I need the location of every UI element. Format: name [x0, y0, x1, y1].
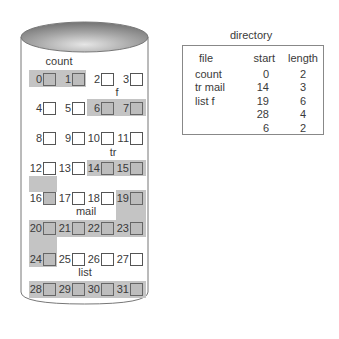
- block-28: 28: [29, 281, 56, 297]
- block-box: [130, 132, 143, 145]
- file-cell: [195, 122, 225, 136]
- file-label-mail: mail: [70, 205, 102, 217]
- block-box: [72, 253, 85, 266]
- block-box: [43, 222, 56, 235]
- file-label-f: f: [110, 86, 124, 98]
- block-box: [43, 162, 56, 175]
- block-8: 8: [32, 130, 56, 146]
- block-box: [72, 222, 85, 235]
- block-1: 1: [61, 71, 85, 87]
- length-cell: 3: [285, 81, 321, 95]
- block-box: [130, 102, 143, 115]
- file-label-list: list: [70, 266, 100, 278]
- length-cell: 4: [285, 108, 321, 122]
- block-box: [43, 283, 56, 296]
- block-box: [130, 162, 143, 175]
- block-box: [101, 162, 114, 175]
- block-2: 2: [90, 71, 114, 87]
- length-cell: 6: [285, 95, 321, 109]
- block-11: 11: [116, 130, 143, 146]
- block-24: 24: [29, 251, 56, 267]
- block-box: [72, 283, 85, 296]
- file-label-count: count: [36, 55, 82, 67]
- start-cell: 28: [245, 108, 275, 122]
- header-length: length: [285, 52, 321, 66]
- file-cell: tr mail: [195, 81, 225, 95]
- header-start: start: [245, 52, 275, 66]
- block-box: [130, 73, 143, 86]
- directory-table: file count tr mail list f start 0 14 19 …: [182, 45, 324, 135]
- block-26: 26: [87, 251, 114, 267]
- block-17: 17: [58, 190, 85, 206]
- block-7: 7: [119, 100, 143, 116]
- block-3: 3: [119, 71, 143, 87]
- start-cell: 6: [245, 122, 275, 136]
- length-cell: 2: [285, 68, 321, 82]
- block-31: 31: [116, 281, 143, 297]
- block-box: [72, 192, 85, 205]
- block-15: 15: [116, 160, 143, 176]
- start-cell: 0: [245, 68, 275, 82]
- block-box: [43, 192, 56, 205]
- block-19: 19: [116, 190, 143, 206]
- file-cell: count: [195, 68, 225, 82]
- block-13: 13: [58, 160, 85, 176]
- block-4: 4: [32, 100, 56, 116]
- block-14: 14: [87, 160, 114, 176]
- block-box: [130, 192, 143, 205]
- block-box: [101, 192, 114, 205]
- block-21: 21: [58, 220, 85, 236]
- block-box: [72, 132, 85, 145]
- block-25: 25: [58, 251, 85, 267]
- directory-start-column: start 0 14 19 28 6: [245, 52, 275, 136]
- block-18: 18: [87, 190, 114, 206]
- block-box: [43, 253, 56, 266]
- block-box: [72, 162, 85, 175]
- block-box: [43, 102, 56, 115]
- block-box: [101, 73, 114, 86]
- start-cell: 19: [245, 95, 275, 109]
- block-12: 12: [29, 160, 56, 176]
- block-0: 0: [32, 71, 56, 87]
- block-22: 22: [87, 220, 114, 236]
- block-5: 5: [61, 100, 85, 116]
- block-box: [130, 253, 143, 266]
- block-box: [72, 102, 85, 115]
- directory-file-column: file count tr mail list f: [195, 52, 225, 136]
- block-9: 9: [61, 130, 85, 146]
- block-box: [130, 222, 143, 235]
- block-6: 6: [90, 100, 114, 116]
- block-10: 10: [87, 130, 114, 146]
- file-cell: [195, 108, 225, 122]
- block-27: 27: [116, 251, 143, 267]
- file-label-tr: tr: [106, 146, 120, 158]
- block-box: [43, 73, 56, 86]
- block-30: 30: [87, 281, 114, 297]
- file-cell: list f: [195, 95, 225, 109]
- directory-length-column: length 2 3 6 4 2: [285, 52, 321, 136]
- block-20: 20: [29, 220, 56, 236]
- block-box: [130, 283, 143, 296]
- block-box: [101, 132, 114, 145]
- block-box: [101, 283, 114, 296]
- block-16: 16: [29, 190, 56, 206]
- directory-title: directory: [230, 29, 272, 41]
- start-cell: 14: [245, 81, 275, 95]
- block-23: 23: [116, 220, 143, 236]
- block-box: [72, 73, 85, 86]
- block-box: [43, 132, 56, 145]
- length-cell: 2: [285, 122, 321, 136]
- header-file: file: [195, 52, 225, 66]
- block-box: [101, 253, 114, 266]
- block-box: [101, 222, 114, 235]
- block-box: [101, 102, 114, 115]
- block-29: 29: [58, 281, 85, 297]
